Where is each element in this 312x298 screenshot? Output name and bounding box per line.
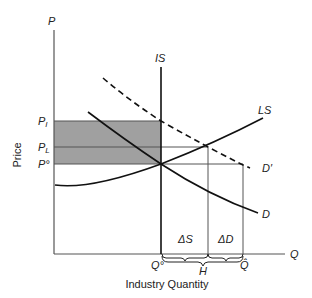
d-prime-label: D′ (262, 162, 273, 174)
p-i-label: PI (38, 115, 48, 129)
d-label: D (262, 208, 270, 220)
delta-s-label: ΔS (177, 233, 193, 245)
q-0-label: Q° (151, 259, 165, 271)
y-axis-symbol: P (48, 15, 56, 27)
diagram-canvas: P Q Price Industry Quantity PI PL P° IS … (0, 0, 312, 298)
delta-d-label: ΔD (217, 233, 233, 245)
q-hat-label: Q̂ (240, 258, 249, 271)
p-l-label: PL (38, 141, 50, 155)
is-label: IS (155, 52, 166, 64)
y-axis-title: Price (11, 142, 23, 167)
delta-d-brace (208, 254, 243, 261)
x-axis-title: Industry Quantity (125, 278, 209, 290)
h-label: H (199, 265, 207, 277)
x-axis-symbol: Q (290, 248, 299, 260)
delta-s-brace (162, 254, 208, 261)
p-0-label: P° (38, 158, 50, 170)
ls-label: LS (258, 104, 272, 116)
